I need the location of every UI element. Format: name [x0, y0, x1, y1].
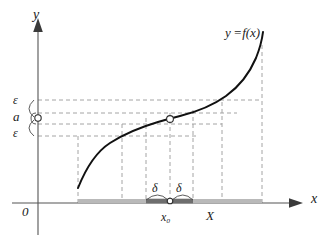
limit-value-label: a	[13, 110, 20, 123]
x-zero-label: x₀	[161, 211, 171, 223]
epsilon-lower-label: ε	[13, 127, 18, 139]
epsilon-guide-lines	[38, 100, 262, 136]
delta-guide-lines	[78, 45, 262, 203]
delta-left-label: δ	[152, 182, 158, 194]
x-axis-arrowhead	[289, 198, 303, 208]
point-a-marker	[35, 115, 41, 121]
curve-f-of-x	[78, 32, 263, 188]
function-label: y =f(x)	[225, 26, 260, 39]
epsilon-delta-figure: y x 0 y =f(x) ε a ε δ δ x₀ X	[0, 0, 326, 242]
delta-right-label: δ	[176, 182, 182, 194]
x-axis-label: x	[311, 192, 317, 206]
function-curve	[78, 32, 263, 188]
epsilon-lower-arc	[29, 120, 34, 136]
figure-canvas	[0, 0, 326, 242]
y-axis-label: y	[33, 8, 39, 22]
point-on-curve-marker	[167, 116, 174, 123]
domain-set-label: X	[206, 209, 214, 222]
point-x-zero-marker	[167, 198, 173, 204]
epsilon-upper-label: ε	[13, 94, 18, 106]
origin-label: 0	[22, 205, 29, 218]
